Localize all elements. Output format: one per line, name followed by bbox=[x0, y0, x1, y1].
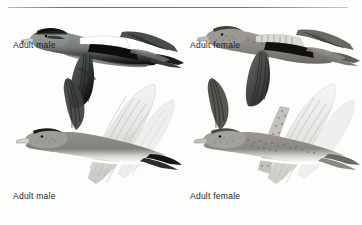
caption-bottom-left-adult-male: Adult male bbox=[13, 192, 56, 201]
eye bbox=[41, 135, 43, 137]
eye bbox=[45, 35, 48, 38]
caption-bottom-right-adult-female: Adult female bbox=[190, 192, 240, 201]
bill bbox=[16, 138, 29, 143]
eye bbox=[221, 33, 223, 35]
caption-top-right-adult-female: Adult female bbox=[190, 41, 240, 50]
bill bbox=[194, 138, 207, 143]
eye bbox=[219, 135, 221, 137]
caption-top-left-adult-male: Adult male bbox=[13, 41, 56, 50]
illustration-plate: Adult male Adult female Adult male Adult… bbox=[0, 0, 362, 225]
